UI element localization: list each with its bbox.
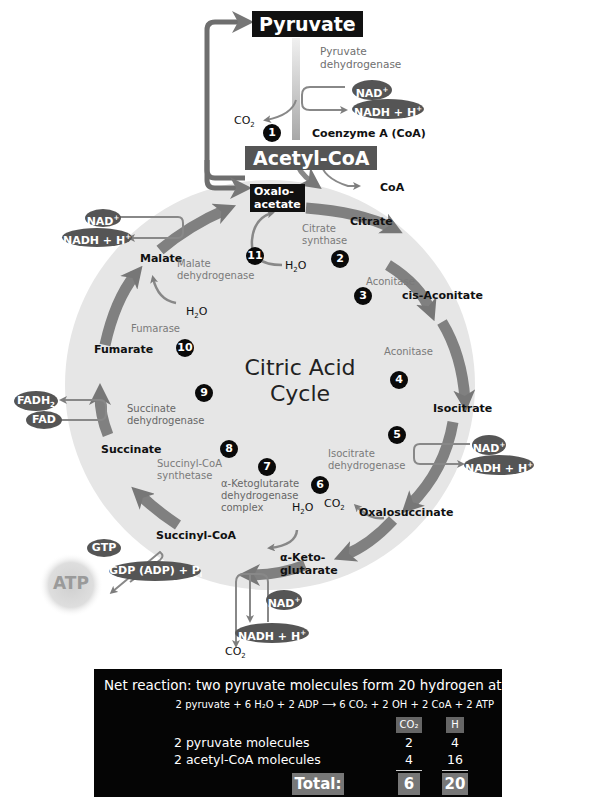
row-acetyl-co2: 4 xyxy=(394,752,424,767)
malate-dehydrogenase-label: Malate dehydrogenase xyxy=(177,258,254,282)
h2o-citrate-synthase: H2O xyxy=(285,259,306,277)
col-header-co2: CO₂ xyxy=(396,717,422,733)
row-label-pyruvate: 2 pyruvate molecules xyxy=(174,735,309,750)
total-co2: 6 xyxy=(398,773,420,795)
pyruvate-dehydrogenase-label: Pyruvate dehydrogenase xyxy=(320,45,401,71)
citrate-synthase-label: Citrate synthase xyxy=(302,223,347,247)
pyruvate-label: Pyruvate xyxy=(252,11,363,37)
acetyl-coa-label: Acetyl-CoA xyxy=(245,146,377,170)
atp-label: ATP xyxy=(53,573,89,593)
gtp-pill: GTP xyxy=(87,539,121,557)
nad-pill-top: NAD+ xyxy=(352,80,392,100)
cis-aconitate-label: cis-Aconitate xyxy=(402,289,483,302)
co2-akg: CO2 xyxy=(225,645,246,663)
nadh-pill-right: NADH + H+ xyxy=(464,455,534,475)
aconitase-label-a: Aconitase xyxy=(366,276,415,288)
aconitase-label-b: Aconitase xyxy=(384,346,433,358)
nad-pill-bottom: NAD+ xyxy=(266,590,302,610)
step-10-badge: 10 xyxy=(176,339,194,357)
isocitrate-label: Isocitrate xyxy=(433,402,492,415)
alpha-ketoglutarate-label: α-Keto- glutarate xyxy=(280,551,338,577)
net-reaction-equation: 2 pyruvate + 6 H₂O + 2 ADP ⟶ 6 CO₂ + 2 O… xyxy=(176,699,494,710)
succinyl-coa-label: Succinyl-CoA xyxy=(156,529,236,542)
total-h: 20 xyxy=(442,773,468,795)
malate-label: Malate xyxy=(140,252,182,265)
step-6-badge: 6 xyxy=(311,476,329,494)
nad-pill-left: NAD+ xyxy=(85,209,121,227)
row-label-acetyl-coa: 2 acetyl-CoA molecules xyxy=(174,752,321,767)
co2-label-top: CO2 xyxy=(234,114,255,132)
fumarase-label: Fumarase xyxy=(131,323,180,335)
nadh-pill-bottom: NADH + H+ xyxy=(235,623,309,643)
fadh2-pill: FADH2 xyxy=(14,391,58,411)
oxaloacetate-label: Oxalo- acetate xyxy=(250,184,305,212)
step-1-badge: 1 xyxy=(263,124,281,142)
citrate-label: Citrate xyxy=(350,215,393,228)
succinate-dehydrogenase-label: Succinate dehydrogenase xyxy=(127,403,204,427)
row-pyruvate-h: 4 xyxy=(440,735,470,750)
fumarate-label: Fumarate xyxy=(94,343,153,356)
nadh-pill-left: NADH + H+ xyxy=(62,228,132,247)
h2o-fumarase: H2O xyxy=(186,305,207,323)
isocitrate-dehydrogenase-label: Isocitrate dehydrogenase xyxy=(328,448,405,472)
nad-pill-right: NAD+ xyxy=(472,435,506,455)
step-7-badge: 7 xyxy=(258,458,276,476)
gdp-pill: GDP (ADP) + Pi xyxy=(109,561,201,581)
step-9-badge: 9 xyxy=(195,384,213,402)
step-4-badge: 4 xyxy=(390,371,408,389)
step-2-badge: 2 xyxy=(331,250,349,268)
col-header-h: H xyxy=(446,717,464,733)
step-8-badge: 8 xyxy=(220,440,238,458)
total-label: Total: xyxy=(292,773,344,795)
coa-out-label: CoA xyxy=(380,181,404,194)
nadh-pill-top: NADH + H+ xyxy=(352,99,424,119)
sum-rule-h xyxy=(442,770,468,771)
succinate-label: Succinate xyxy=(101,443,162,456)
step-11-badge: 11 xyxy=(246,247,264,265)
sum-rule-co2 xyxy=(396,770,422,771)
step-3-badge: 3 xyxy=(354,287,372,305)
succinyl-coa-synthetase-label: Succinyl-CoA synthetase xyxy=(157,458,222,482)
h2o-akg: H2O xyxy=(292,501,313,519)
net-reaction-heading: Net reaction: two pyruvate molecules for… xyxy=(104,677,530,693)
coenzyme-a-label: Coenzyme A (CoA) xyxy=(312,127,426,140)
net-reaction-panel: Net reaction: two pyruvate molecules for… xyxy=(94,669,502,797)
akg-dehydrogenase-label: α-Ketoglutarate dehydrogenase complex xyxy=(221,478,299,514)
co2-oxalosuccinate: CO2 xyxy=(324,497,345,515)
step-5-badge: 5 xyxy=(388,426,406,444)
row-pyruvate-co2: 2 xyxy=(394,735,424,750)
cycle-title: Citric Acid Cycle xyxy=(230,355,370,407)
oxalosuccinate-label: Oxalosuccinate xyxy=(359,506,453,519)
fad-pill: FAD xyxy=(26,411,62,429)
row-acetyl-h: 16 xyxy=(440,752,470,767)
